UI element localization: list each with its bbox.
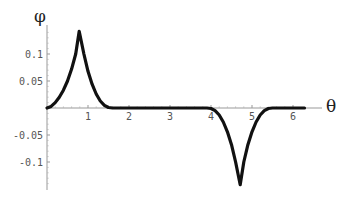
y-axis-label: φ bbox=[34, 6, 46, 26]
line-chart: 123456 0.10.05-0.05-0.1 θ φ bbox=[0, 0, 338, 199]
y-tick-label: 0.1 bbox=[25, 49, 43, 60]
x-tick-label: 6 bbox=[290, 111, 296, 122]
y-tick-label: 0.05 bbox=[19, 76, 43, 87]
y-ticks: 0.10.05-0.05-0.1 bbox=[13, 32, 50, 183]
x-tick-label: 5 bbox=[249, 111, 255, 122]
x-axis-label: θ bbox=[326, 96, 336, 116]
x-tick-label: 4 bbox=[208, 111, 214, 122]
x-tick-label: 1 bbox=[85, 111, 91, 122]
y-tick-label: -0.05 bbox=[13, 130, 43, 141]
y-tick-label: -0.1 bbox=[19, 157, 43, 168]
x-tick-label: 2 bbox=[126, 111, 132, 122]
x-tick-label: 3 bbox=[167, 111, 173, 122]
